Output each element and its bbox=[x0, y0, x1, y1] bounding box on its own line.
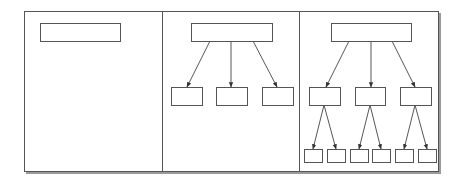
tree-node-c3 bbox=[263, 88, 294, 106]
tree-node-root bbox=[332, 24, 412, 42]
tree-node-g5 bbox=[396, 150, 414, 163]
tree-node-c1 bbox=[172, 88, 203, 106]
tree-node-g4 bbox=[373, 150, 391, 163]
panel-1 bbox=[41, 24, 121, 42]
tree-node-g2 bbox=[328, 150, 346, 163]
tree-node-g3 bbox=[351, 150, 369, 163]
tree-node-g6 bbox=[419, 150, 437, 163]
tree-node-c3 bbox=[401, 88, 432, 106]
diagram-canvas bbox=[0, 0, 463, 185]
tree-node-root bbox=[192, 24, 273, 42]
tree-node-c1 bbox=[310, 88, 341, 106]
tree-node-g1 bbox=[305, 150, 323, 163]
tree-node-c2 bbox=[356, 88, 386, 106]
tree-node-c2 bbox=[217, 88, 248, 106]
tree-node-root bbox=[41, 24, 121, 42]
